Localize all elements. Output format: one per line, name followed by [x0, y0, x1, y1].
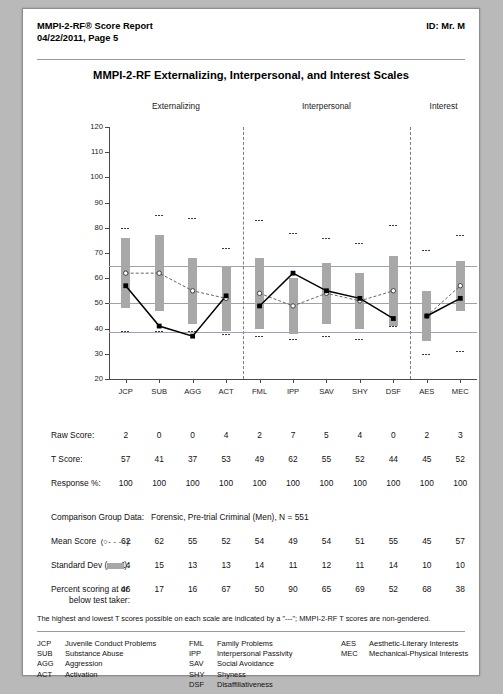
response-pct-value: 100	[414, 478, 440, 488]
percent-at-or-below-value: 90	[280, 584, 306, 594]
x-axis-tick	[427, 379, 428, 383]
response-pct-value: 100	[280, 478, 306, 488]
client-id: ID: Mr. M	[426, 21, 465, 31]
t-score-row-label: T Score:	[51, 454, 83, 464]
percent-at-or-below-row-label: Percent scoring at orbelow test taker:	[51, 584, 130, 606]
t-score-value: 55	[313, 454, 339, 464]
abbreviation-item: IPPInterpersonal Passivity	[189, 649, 292, 659]
t-score-marker	[123, 283, 128, 288]
mean-score-marker	[291, 304, 295, 308]
t-score-marker	[157, 324, 162, 329]
mean-score-value: 54	[247, 536, 273, 546]
standard-dev-row-label: Standard Dev ():	[51, 560, 129, 570]
abbreviation-code: FML	[189, 639, 217, 649]
standard-dev-value: 14	[380, 560, 406, 570]
comparison-group-data: Comparison Group Data: Forensic, Pre-tri…	[51, 512, 309, 522]
y-axis-tick-label: 50	[83, 298, 103, 307]
t-score-marker	[424, 314, 429, 319]
response-pct-value: 100	[213, 478, 239, 488]
y-axis-tick-label: 80	[83, 223, 103, 232]
abbreviation-code: SHY	[189, 670, 217, 680]
standard-dev-value: 14	[247, 560, 273, 570]
t-score-value: 53	[213, 454, 239, 464]
raw-score-value: 0	[180, 430, 206, 440]
x-axis-tick	[159, 379, 160, 383]
mean-score-text: Mean Score	[51, 536, 96, 546]
percent-at-or-below-value: 67	[213, 584, 239, 594]
x-axis-tick	[393, 379, 394, 383]
response-pct-value: 100	[247, 478, 273, 488]
section-label-interpersonal: Interpersonal	[266, 101, 386, 111]
chart-footnote: The highest and lowest T scores possible…	[37, 614, 465, 623]
raw-score-row-label: Raw Score:	[51, 430, 94, 440]
x-axis-scale-label: AGG	[178, 387, 208, 396]
raw-score-value: 0	[146, 430, 172, 440]
x-axis-scale-label: SUB	[144, 387, 174, 396]
response-pct-value: 100	[180, 478, 206, 488]
standard-dev-legend-swatch	[107, 563, 124, 569]
y-axis-tick-label: 20	[83, 374, 103, 383]
percent-label-line2: below test taker:	[51, 595, 130, 606]
t-score-marker	[358, 296, 363, 301]
abbreviation-name: Social Avoidance	[217, 659, 274, 668]
mean-score-row-label: Mean Score (○- - -○):	[51, 536, 131, 546]
abbreviation-name: Juvenile Conduct Problems	[65, 639, 156, 648]
abbreviation-code: JCP	[37, 639, 65, 649]
t-score-marker	[190, 334, 195, 339]
mean-score-marker	[190, 289, 194, 293]
mean-score-value: 57	[447, 536, 473, 546]
abbreviation-item: MECMechanical-Physical Interests	[341, 649, 468, 659]
x-axis-tick	[260, 379, 261, 383]
abbreviation-item: ACTActivation	[37, 670, 156, 680]
standard-dev-value: 10	[447, 560, 473, 570]
mean-score-value: 45	[414, 536, 440, 546]
response-pct-value: 100	[146, 478, 172, 488]
mean-score-value: 49	[280, 536, 306, 546]
x-axis-tick	[293, 379, 294, 383]
y-axis-tick-label: 110	[83, 147, 103, 156]
standard-dev-value: 13	[180, 560, 206, 570]
section-label-externalizing: Externalizing	[116, 101, 236, 111]
x-axis-tick	[360, 379, 361, 383]
x-axis-tick	[126, 379, 127, 383]
raw-score-value: 3	[447, 430, 473, 440]
mean-score-value: 62	[146, 536, 172, 546]
y-axis-tick	[105, 379, 109, 380]
t-score-value: 37	[180, 454, 206, 464]
percent-at-or-below-value: 65	[313, 584, 339, 594]
mean-score-marker	[458, 284, 462, 288]
percent-at-or-below-value: 16	[180, 584, 206, 594]
mean-score-line	[126, 273, 226, 298]
raw-score-value: 2	[113, 430, 139, 440]
mean-score-value: 55	[180, 536, 206, 546]
abbreviation-code: AGG	[37, 659, 65, 669]
mean-score-legend-glyph: (○- - -○):	[101, 537, 131, 546]
percent-at-or-below-value: 17	[146, 584, 172, 594]
y-axis-tick-label: 100	[83, 172, 103, 181]
y-axis-tick-label: 40	[83, 324, 103, 333]
report-title: MMPI-2-RF® Score Report 04/22/2011, Page…	[37, 21, 153, 44]
percent-at-or-below-value: 68	[414, 584, 440, 594]
x-axis-scale-label: DSF	[378, 387, 408, 396]
y-axis-tick-label: 60	[83, 273, 103, 282]
t-score-marker	[324, 288, 329, 293]
t-score-line	[126, 286, 226, 336]
abbreviation-code: SAV	[189, 659, 217, 669]
x-axis-scale-label: IPP	[278, 387, 308, 396]
standard-dev-value: 13	[213, 560, 239, 570]
t-score-value: 44	[380, 454, 406, 464]
response-pct-value: 100	[313, 478, 339, 488]
mean-score-marker	[157, 271, 161, 275]
response-pct-value: 100	[113, 478, 139, 488]
raw-score-value: 7	[280, 430, 306, 440]
scales-profile-chart: 2030405060708090100110120JCPSUBAGGACTFML…	[109, 127, 477, 379]
abbreviation-name: Disaffiliativeness	[217, 680, 273, 689]
t-score-marker	[224, 293, 229, 298]
x-axis-scale-label: AES	[412, 387, 442, 396]
standard-dev-value: 11	[280, 560, 306, 570]
y-axis-tick-label: 90	[83, 198, 103, 207]
abbreviation-name: Substance Abuse	[65, 649, 123, 658]
comparison-group-label: Comparison Group Data:	[51, 512, 144, 522]
y-axis-tick-label: 70	[83, 248, 103, 257]
abbreviation-column-1: JCPJuvenile Conduct ProblemsSUBSubstance…	[37, 639, 156, 680]
